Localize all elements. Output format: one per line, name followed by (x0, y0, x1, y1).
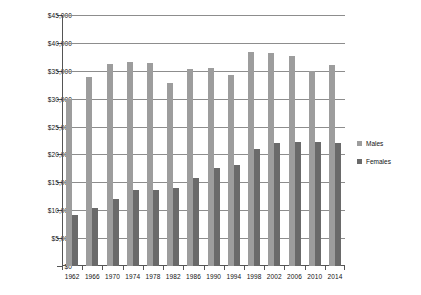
x-axis-cell: 1982 (163, 266, 183, 292)
x-tick-mark (62, 266, 63, 270)
legend: MalesFemales (357, 140, 391, 176)
x-tick-label: 1986 (186, 273, 201, 280)
bar-group (264, 15, 284, 266)
x-tick-mark (264, 266, 265, 270)
bar-group (224, 15, 244, 266)
bar-groups (62, 15, 345, 266)
x-tick-label: 2006 (287, 273, 302, 280)
bar-group (62, 15, 82, 266)
x-axis-cell: 2006 (284, 266, 304, 292)
x-tick-mark (163, 266, 164, 270)
x-axis-cell: 1966 (82, 266, 102, 292)
x-axis-cell: 1986 (183, 266, 203, 292)
x-tick-mark (143, 266, 144, 270)
x-tick-label: 1966 (85, 273, 100, 280)
x-tick-label: 1970 (105, 273, 120, 280)
bar-females-1962 (72, 215, 78, 266)
x-tick-label: 1982 (166, 273, 181, 280)
bar-females-1970 (113, 199, 119, 266)
bar-group (102, 15, 122, 266)
bar-females-1986 (193, 178, 199, 266)
bar-group (82, 15, 102, 266)
x-tick-mark (244, 266, 245, 270)
bar-group (305, 15, 325, 266)
bar-group (284, 15, 304, 266)
x-tick-mark (204, 266, 205, 270)
x-tick-label: 1998 (247, 273, 262, 280)
bar-females-2014 (335, 143, 341, 266)
x-axis-cell: 1994 (224, 266, 244, 292)
bar-females-2002 (274, 143, 280, 266)
x-tick-label: 2014 (328, 273, 343, 280)
x-tick-label: 2010 (307, 273, 322, 280)
x-tick-label: 1962 (65, 273, 80, 280)
x-axis-cell: 1970 (102, 266, 122, 292)
x-tick-mark (325, 266, 326, 270)
bar-females-2010 (315, 142, 321, 266)
bar-females-1966 (92, 208, 98, 266)
x-axis-cell: 1974 (123, 266, 143, 292)
legend-swatch-icon (357, 159, 362, 164)
x-axis-cell: 1978 (143, 266, 163, 292)
x-tick-label: 1978 (146, 273, 161, 280)
legend-label: Males (366, 140, 383, 147)
legend-label: Females (366, 158, 391, 165)
bar-females-1974 (133, 190, 139, 266)
bar-group (163, 15, 183, 266)
legend-swatch-icon (357, 141, 362, 146)
x-tick-mark (123, 266, 124, 270)
x-axis-cell: 1998 (244, 266, 264, 292)
x-tick-mark (224, 266, 225, 270)
bar-group (143, 15, 163, 266)
x-tick-label: 2002 (267, 273, 282, 280)
x-axis-cell: 1962 (62, 266, 82, 292)
x-tick-label: 1994 (226, 273, 241, 280)
x-tick-label: 1990 (206, 273, 221, 280)
x-tick-mark (82, 266, 83, 270)
bar-females-1982 (173, 188, 179, 266)
bar-females-1994 (234, 165, 240, 266)
x-tick-label: 1974 (125, 273, 140, 280)
x-axis-cell: 2002 (264, 266, 284, 292)
x-tick-mark (344, 266, 345, 270)
bar-group (244, 15, 264, 266)
bar-females-1978 (153, 190, 159, 266)
x-axis-cell: 2014 (325, 266, 345, 292)
x-axis-cell: 1990 (204, 266, 224, 292)
legend-item-males[interactable]: Males (357, 140, 391, 147)
legend-item-females[interactable]: Females (357, 158, 391, 165)
x-tick-mark (305, 266, 306, 270)
x-tick-mark (102, 266, 103, 270)
x-axis-cell: 2010 (305, 266, 325, 292)
x-tick-mark (284, 266, 285, 270)
bar-chart: $45,000$40,000$35,000$30,000$25,000$20,0… (0, 0, 421, 295)
bar-group (204, 15, 224, 266)
bar-group (183, 15, 203, 266)
bar-group (123, 15, 143, 266)
bar-females-1998 (254, 149, 260, 266)
x-tick-mark (183, 266, 184, 270)
x-axis: 1962196619701974197819821986199019941998… (62, 266, 345, 292)
bar-females-1990 (214, 168, 220, 266)
bar-group (325, 15, 345, 266)
bar-females-2006 (295, 142, 301, 266)
